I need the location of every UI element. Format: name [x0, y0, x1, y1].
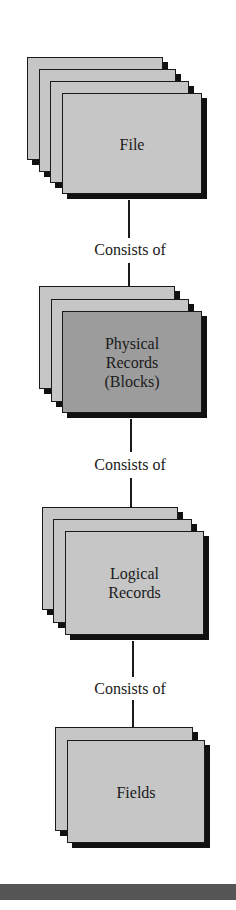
- connector-line: [130, 419, 132, 452]
- physical-records-sheet-front: Physical Records (Blocks): [62, 311, 202, 413]
- connector-line: [132, 641, 134, 677]
- logical-records-sheet-front: Logical Records: [65, 531, 204, 635]
- relation-label: Consists of: [0, 456, 236, 474]
- logical-records-label: Logical Records: [66, 564, 203, 602]
- connector-line: [128, 263, 130, 286]
- physical-records-label: Physical Records (Blocks): [63, 334, 201, 391]
- file-label: File: [63, 134, 201, 153]
- fields-label: Fields: [68, 782, 204, 801]
- relation-label: Consists of: [0, 680, 236, 698]
- connector-line: [130, 478, 132, 507]
- connector-line: [128, 200, 130, 238]
- connector-line: [132, 700, 134, 727]
- fields-sheet-front: Fields: [67, 740, 205, 843]
- relation-label: Consists of: [0, 241, 236, 259]
- file-sheet-front: File: [62, 93, 202, 194]
- bottom-divider-bar: [0, 884, 236, 900]
